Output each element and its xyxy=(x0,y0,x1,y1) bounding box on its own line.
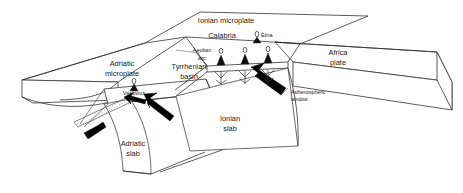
adriatic-slab-face xyxy=(104,99,151,174)
label-adriatic-slab-line1: Adriatic xyxy=(121,139,146,148)
label-asthenospheric-window-line1: Asthenospheric xyxy=(291,89,326,95)
aeolian-3-plume-icon xyxy=(266,46,270,51)
label-etna: Etna xyxy=(261,32,273,38)
collision-wedge-cap xyxy=(74,122,78,127)
ionian-slab-base-leader xyxy=(160,150,222,172)
aeolian-3-cone-icon xyxy=(264,53,272,63)
label-adriatic-microplate-line1: Adriatic xyxy=(110,59,135,68)
etna-plume-icon xyxy=(255,31,259,36)
label-vesuvius: Vesuvius xyxy=(123,90,146,96)
label-ionian-slab-line1: Ionian xyxy=(220,114,240,123)
aeolian-2-plume-icon xyxy=(243,47,247,52)
label-asthenospheric-window-line2: window xyxy=(291,96,308,102)
ionian-microplate-hinge xyxy=(186,37,300,44)
label-tyrrhenian-basin-line2: basin xyxy=(180,72,198,81)
label-calabria: Calabria xyxy=(208,31,236,40)
geological-block-diagram: Ionian microplate Calabria Etna Africa p… xyxy=(0,0,463,193)
aeolian-1-root-icon xyxy=(215,72,227,84)
convergence-arrow-far-left xyxy=(84,122,106,139)
label-africa-plate-line1: Africa xyxy=(329,48,349,57)
label-ionian-microplate: Ionian microplate xyxy=(198,16,254,25)
label-aeolian-arc-line1: Aeolian xyxy=(193,47,212,53)
ionian-microplate-left-edge xyxy=(145,12,200,43)
aeolian-2-cone-icon xyxy=(241,54,249,64)
label-ionian-slab-line2: slab xyxy=(223,124,237,133)
aeolian-1-cone-icon xyxy=(217,55,225,65)
label-aeolian-arc-line2: arc xyxy=(198,55,206,61)
label-adriatic-microplate-line2: microplate xyxy=(105,69,139,78)
volcano-etna xyxy=(253,31,261,43)
label-tyrrhenian-basin-line1: Tyrrhenian xyxy=(172,62,207,71)
label-africa-plate-line2: plate xyxy=(330,58,346,67)
adriatic-slab-base-leader xyxy=(151,152,205,174)
label-adriatic-slab-line2: slab xyxy=(126,149,140,158)
diagram-canvas: Ionian microplate Calabria Etna Africa p… xyxy=(0,0,463,193)
vesuvius-plume-icon xyxy=(132,78,136,83)
ionian-microplate-right-edge xyxy=(300,16,368,44)
etna-cone-icon xyxy=(253,37,261,43)
aeolian-1-plume-icon xyxy=(219,48,223,53)
